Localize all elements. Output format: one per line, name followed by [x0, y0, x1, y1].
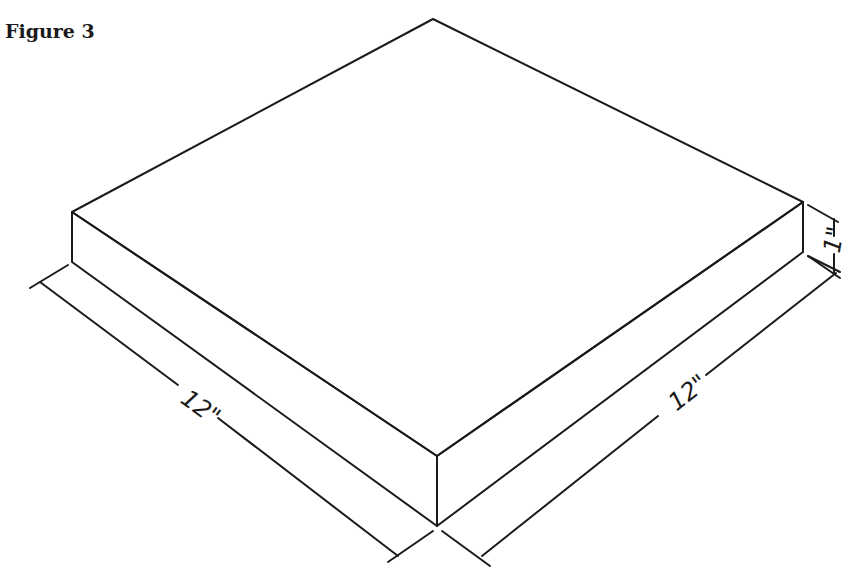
slab-right-face [437, 202, 803, 526]
dimension-height-label: 1" [818, 224, 850, 255]
slab-left-face [72, 212, 437, 526]
dimension-right-label: 12" [663, 369, 713, 417]
dimension-left-label: 12" [176, 384, 226, 431]
slab-diagram: 12" 12" 1" [0, 0, 859, 581]
dimension-height: 1" [808, 205, 850, 273]
